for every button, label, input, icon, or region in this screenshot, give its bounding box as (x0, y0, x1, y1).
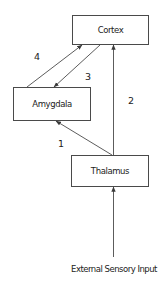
edge-1-thalamus-to-amygdala (56, 121, 112, 155)
amygdala-label: Amygdala (32, 99, 72, 109)
thalamus-label: Thalamus (90, 166, 130, 176)
edge-label-4: 4 (34, 51, 40, 62)
edge-label-3: 3 (85, 71, 91, 82)
edge-label-1: 1 (58, 138, 64, 149)
cortex-label: Cortex (98, 25, 124, 35)
diagram-canvas: Cortex Amygdala Thalamus 1 2 3 4 Externa… (0, 0, 164, 292)
node-amygdala: Amygdala (14, 88, 91, 121)
edge-3-cortex-to-amygdala (54, 45, 100, 87)
node-thalamus: Thalamus (72, 156, 149, 187)
external-sensory-input-label: External Sensory Input (71, 264, 158, 274)
edge-label-2: 2 (128, 95, 134, 106)
node-cortex: Cortex (73, 16, 149, 45)
